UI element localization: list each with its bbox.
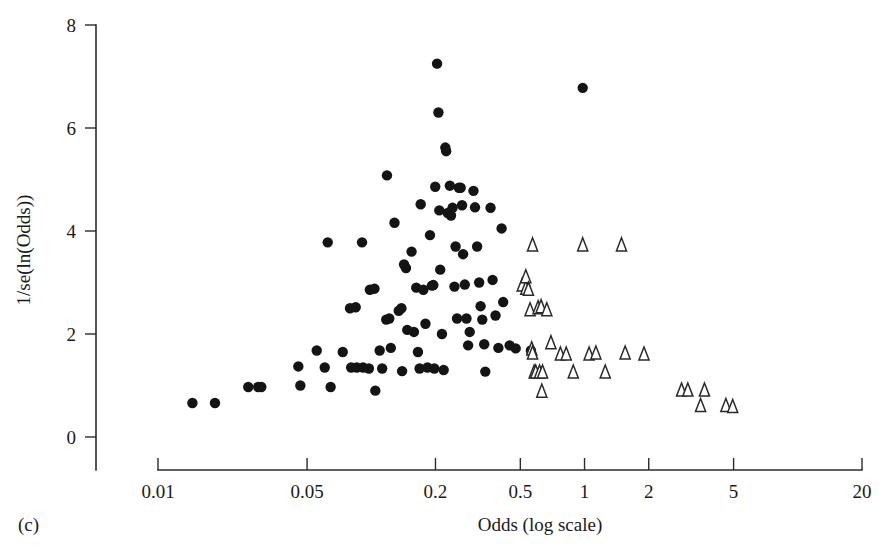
data-point-circle [447,203,457,213]
data-point-circle [320,362,330,372]
data-point-circle [472,241,482,251]
data-point-circle [458,249,468,259]
data-point-circle [256,382,266,392]
data-point-circle [350,302,360,312]
data-point-circle [463,340,473,350]
data-point-triangle [546,336,556,349]
data-point-circle [474,277,484,287]
data-point-circle [465,327,475,337]
data-point-circle [455,183,465,193]
data-point-circle [397,366,407,376]
data-point-circle [477,314,487,324]
data-point-circle [357,237,367,247]
data-point-circle [406,246,416,256]
y-tick-label-0: 0 [67,427,77,448]
data-point-circle [457,200,467,210]
data-point-circle [475,301,485,311]
data-point-triangle [639,347,649,360]
data-point-triangle [527,238,537,251]
data-point-circle [415,199,425,209]
y-axis-tick-labels: 02468 [67,15,77,448]
x-axis-ticks [158,458,862,470]
data-point-circle [428,280,438,290]
scatter-plot-canvas: 02468 1/se(ln(Odds)) 0.010.050.20.512520… [0,0,895,559]
x-tick-label-0: 0.01 [141,481,174,502]
data-point-circle [389,218,399,228]
data-point-circle [493,343,503,353]
data-point-circle [479,339,489,349]
data-point-circle [485,203,495,213]
data-point-circle [312,345,322,355]
data-point-circle [370,385,380,395]
data-point-circle [480,366,490,376]
data-point-circle [210,398,220,408]
data-point-circle [435,264,445,274]
data-point-circle [468,186,478,196]
data-point-circle [420,319,430,329]
data-point-circle [490,310,500,320]
funnel-plot-figure: 02468 1/se(ln(Odds)) 0.010.050.20.512520… [0,0,895,559]
data-point-circle [578,83,588,93]
data-point-circle [487,275,497,285]
data-point-circle [470,202,480,212]
data-point-circle [384,313,394,323]
data-point-circle [429,363,439,373]
x-axis-title: Odds (log scale) [478,514,603,536]
data-point-circle [433,107,443,117]
data-point-circle [438,365,448,375]
x-tick-label-2: 0.2 [424,481,448,502]
data-point-circle [461,313,471,323]
y-axis-ticks [85,25,96,437]
data-point-circle [450,241,460,251]
data-point-circle [187,398,197,408]
data-point-circle [432,58,442,68]
series-open-triangles [517,238,738,413]
data-point-circle [295,380,305,390]
data-point-circle [449,281,459,291]
data-point-circle [382,170,392,180]
y-tick-label-4: 8 [67,15,77,36]
panel-label: (c) [18,514,39,536]
data-point-circle [377,363,387,373]
x-tick-label-1: 0.05 [290,481,323,502]
y-axis: 02468 1/se(ln(Odds)) [13,15,96,470]
data-point-circle [437,329,447,339]
data-point-circle [409,327,419,337]
y-tick-label-2: 4 [67,221,77,242]
data-point-circle [396,303,406,313]
data-point-circle [364,363,374,373]
data-point-circle [496,223,506,233]
data-point-triangle [616,238,626,251]
data-point-triangle [699,383,709,396]
x-tick-label-7: 20 [853,481,872,502]
series-filled-circles [187,58,588,408]
data-point-circle [413,347,423,357]
data-point-triangle [620,346,630,359]
x-axis: 0.010.050.20.512520 Odds (log scale) [141,458,871,536]
data-point-circle [452,313,462,323]
data-point-triangle [591,346,601,359]
x-tick-label-6: 5 [729,481,739,502]
x-axis-tick-labels: 0.010.050.20.512520 [141,481,871,502]
x-tick-label-4: 1 [580,481,590,502]
data-point-triangle [537,384,547,397]
data-point-circle [243,382,253,392]
data-point-circle [401,263,411,273]
data-point-circle [323,237,333,247]
data-point-circle [445,180,455,190]
data-point-circle [338,347,348,357]
data-point-triangle [578,238,588,251]
data-point-circle [325,382,335,392]
data-point-triangle [600,365,610,378]
y-axis-title: 1/se(ln(Odds)) [13,195,35,306]
data-point-triangle [568,365,578,378]
data-point-triangle [696,399,706,412]
x-tick-label-3: 0.5 [508,481,532,502]
data-point-circle [386,343,396,353]
y-tick-label-3: 6 [67,118,77,139]
data-point-circle [441,146,451,156]
data-point-circle [374,345,384,355]
data-point-circle [369,283,379,293]
x-tick-label-5: 2 [644,481,654,502]
data-point-circle [293,361,303,371]
